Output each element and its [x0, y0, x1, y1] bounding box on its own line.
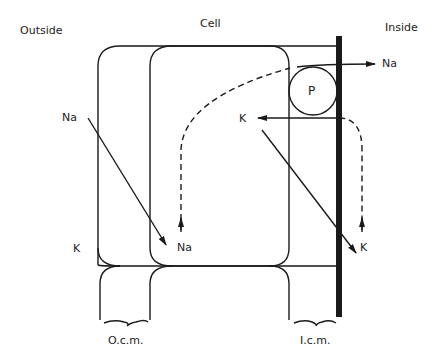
- lower-right-cell: [270, 266, 289, 320]
- label-ocm: O.c.m.: [108, 335, 143, 346]
- label-k-inside: K: [360, 242, 367, 253]
- label-pump: P: [308, 85, 315, 97]
- icm-brace: [294, 321, 336, 326]
- diagram-canvas: [0, 0, 442, 356]
- label-inside: Inside: [385, 22, 418, 33]
- ocm-brace: [104, 321, 148, 327]
- inner-cell-outline: [150, 46, 289, 266]
- label-icm: I.c.m.: [300, 335, 331, 346]
- outer-cell-outline: [98, 46, 339, 265]
- lower-left-cell: [100, 266, 120, 320]
- label-cell: Cell: [200, 18, 221, 29]
- label-na-outside: Na: [62, 112, 77, 123]
- label-k-outside: K: [73, 243, 80, 254]
- label-na-cell: Na: [177, 242, 192, 253]
- inner-membrane: [336, 36, 342, 317]
- label-outside: Outside: [20, 25, 62, 36]
- label-na-inside: Na: [382, 58, 397, 69]
- label-k-cell: K: [239, 113, 246, 124]
